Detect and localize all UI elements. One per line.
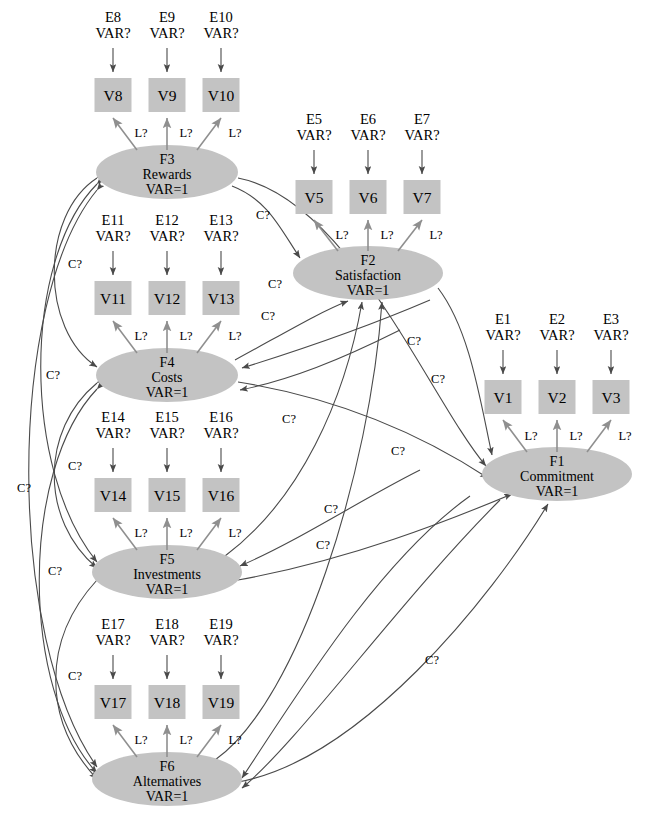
- loading-label-12: L?: [134, 526, 148, 540]
- loading-label-9: L?: [524, 429, 538, 443]
- loading-label-1: L?: [179, 126, 193, 140]
- factor-variance-f4: VAR=1: [146, 385, 189, 400]
- loading-arrow-f5-v16: [197, 518, 221, 550]
- error-variance-e11: VAR?: [95, 228, 130, 244]
- variable-label-v3: V3: [602, 389, 621, 406]
- covariance-label-5: C?: [431, 372, 445, 386]
- loading-label-3: L?: [335, 228, 349, 242]
- error-label-e10: E10: [209, 9, 232, 25]
- covariance-label-13: C?: [316, 538, 330, 552]
- variable-label-v1: V1: [494, 389, 513, 406]
- error-label-e17: E17: [101, 616, 124, 632]
- variable-label-v8: V8: [104, 87, 123, 104]
- error-label-e3: E3: [603, 311, 619, 327]
- covariance-label-4: C?: [46, 368, 60, 382]
- error-variance-e7: VAR?: [404, 127, 439, 143]
- path-f1-f6b: [242, 500, 500, 788]
- variable-label-v18: V18: [154, 694, 181, 711]
- loading-label-8: L?: [228, 329, 242, 343]
- covariance-label-6: C?: [407, 334, 421, 348]
- covariance-edges: [29, 178, 97, 779]
- path-f2-f1: [438, 288, 492, 455]
- factor-code-f2: F2: [361, 253, 376, 268]
- loading-arrow-f4-v13: [197, 321, 221, 353]
- error-variance-e18: VAR?: [149, 632, 184, 648]
- loading-arrow-f2-v7: [398, 220, 422, 251]
- covariance-label-14: C?: [68, 669, 82, 683]
- error-variance-e3: VAR?: [593, 327, 628, 343]
- error-variance-e10: VAR?: [203, 25, 238, 41]
- factor-code-f4: F4: [160, 355, 175, 370]
- loading-label-7: L?: [179, 329, 193, 343]
- loading-label-11: L?: [618, 429, 632, 443]
- loading-label-5: L?: [429, 228, 443, 242]
- path-f4-f2: [235, 301, 348, 360]
- factor-code-f1: F1: [550, 454, 565, 469]
- error-variance-e17: VAR?: [95, 632, 130, 648]
- cov-arc-f3-f4: [54, 178, 97, 367]
- error-variance-e1: VAR?: [485, 327, 520, 343]
- variable-label-v5: V5: [305, 189, 324, 206]
- factor-code-f3: F3: [160, 152, 175, 167]
- error-label-e7: E7: [414, 111, 430, 127]
- covariance-label-0: C?: [256, 208, 270, 222]
- loading-arrow-f3-v10: [197, 118, 221, 150]
- cov-arc-f3-f6: [29, 190, 97, 767]
- factor-variance-f6: VAR=1: [146, 789, 189, 804]
- loading-arrow-f2-v5: [314, 220, 338, 251]
- variable-label-v12: V12: [154, 290, 181, 307]
- error-label-e6: E6: [360, 111, 376, 127]
- path-f1-f5: [240, 470, 420, 566]
- path-f5-f1: [238, 494, 512, 580]
- factor-name-f3: Rewards: [143, 167, 192, 182]
- covariance-label-9: C?: [391, 444, 405, 458]
- variable-label-v6: V6: [359, 189, 378, 206]
- variable-label-v15: V15: [154, 487, 181, 504]
- path-f5-f2: [225, 302, 362, 556]
- loading-arrow-f1-v3: [587, 420, 611, 452]
- error-variance-e5: VAR?: [296, 127, 331, 143]
- variable-label-v9: V9: [158, 87, 177, 104]
- variable-label-v19: V19: [208, 694, 235, 711]
- factor-code-f6: F6: [160, 759, 175, 774]
- covariance-label-2: C?: [268, 277, 282, 291]
- variable-label-v2: V2: [548, 389, 567, 406]
- loading-label-13: L?: [179, 526, 193, 540]
- error-variance-e2: VAR?: [539, 327, 574, 343]
- loading-arrow-f1-v1: [503, 420, 527, 452]
- loading-arrow-f6-v19: [197, 725, 221, 757]
- loading-arrow-f5-v14: [113, 518, 137, 550]
- error-variance-e15: VAR?: [149, 425, 184, 441]
- error-label-e2: E2: [549, 311, 565, 327]
- error-label-e13: E13: [209, 212, 232, 228]
- variable-label-v7: V7: [413, 189, 432, 206]
- factor-name-f1: Commitment: [520, 469, 594, 484]
- factor-code-f5: F5: [160, 552, 175, 567]
- variable-label-v13: V13: [208, 290, 235, 307]
- error-variance-e16: VAR?: [203, 425, 238, 441]
- error-label-e5: E5: [306, 111, 322, 127]
- error-label-e19: E19: [209, 616, 232, 632]
- covariance-label-7: C?: [68, 459, 82, 473]
- loading-label-16: L?: [179, 733, 193, 747]
- loading-label-10: L?: [569, 429, 583, 443]
- loading-label-4: L?: [380, 228, 394, 242]
- loading-label-0: L?: [134, 126, 148, 140]
- loading-arrow-f6-v17: [113, 725, 137, 757]
- error-label-e18: E18: [155, 616, 178, 632]
- path-f6-f1: [238, 504, 548, 782]
- variable-label-v11: V11: [100, 290, 126, 307]
- loading-label-17: L?: [228, 733, 242, 747]
- error-label-e15: E15: [155, 409, 178, 425]
- covariance-label-1: C?: [68, 257, 82, 271]
- cov-arc-f4-f5: [54, 383, 97, 568]
- loading-label-2: L?: [228, 126, 242, 140]
- path-diagram-canvas: F3RewardsVAR=1F2SatisfactionVAR=1F4Costs…: [0, 0, 647, 824]
- path-f4-f1: [238, 382, 488, 478]
- variable-label-v17: V17: [100, 694, 127, 711]
- loading-label-14: L?: [228, 526, 242, 540]
- loading-label-6: L?: [134, 329, 148, 343]
- factor-variance-f5: VAR=1: [146, 582, 189, 597]
- error-label-e9: E9: [159, 9, 175, 25]
- covariance-label-3: C?: [261, 309, 275, 323]
